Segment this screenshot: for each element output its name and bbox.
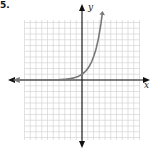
exponential-curve [19,15,102,80]
exponential-graph: x y [0,0,154,151]
y-axis-label: y [87,2,94,12]
x-axis-label: x [144,80,149,90]
